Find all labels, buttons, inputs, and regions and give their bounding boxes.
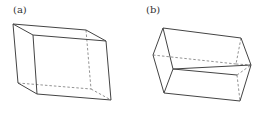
visible-edge xyxy=(37,94,111,100)
visible-edge xyxy=(163,28,173,69)
visible-edge xyxy=(33,35,106,41)
hidden-edge xyxy=(86,30,91,89)
figure-a-parallelepiped xyxy=(13,24,111,100)
visible-edge xyxy=(173,69,237,75)
visible-edge xyxy=(164,69,173,93)
diagram-canvas xyxy=(0,0,256,114)
visible-edge xyxy=(153,28,163,55)
hidden-edge xyxy=(153,55,236,64)
visible-edge xyxy=(13,24,86,30)
visible-edge xyxy=(13,24,18,83)
hidden-edge xyxy=(236,38,241,64)
visible-edge xyxy=(240,65,251,101)
visible-edge xyxy=(173,65,251,69)
visible-edge xyxy=(153,55,164,93)
figure-b-prism xyxy=(153,28,251,101)
visible-edge xyxy=(241,38,251,65)
visible-edge xyxy=(18,83,37,94)
visible-edge xyxy=(164,93,240,101)
visible-edge xyxy=(33,35,37,94)
visible-edge xyxy=(163,28,241,38)
hidden-edge xyxy=(237,75,240,101)
visible-edge xyxy=(106,41,111,100)
hidden-edge xyxy=(18,83,91,89)
